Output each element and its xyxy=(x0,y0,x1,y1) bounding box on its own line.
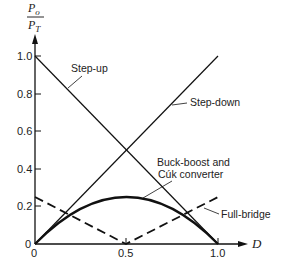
y-axis-arrow-icon xyxy=(32,34,38,44)
y-axis-label: Po PT xyxy=(27,1,44,34)
y-tick-label: 0.2 xyxy=(17,200,32,212)
annotation-buck-boost-2: Cúk converter xyxy=(158,168,224,180)
annotation-buck-boost-1: Buck-boost and xyxy=(157,156,230,168)
y-tick-label: 0.6 xyxy=(17,125,32,137)
series-buck-boost-cuk xyxy=(35,197,218,244)
y-tick-label: 0.8 xyxy=(17,88,32,100)
svg-text:PT: PT xyxy=(27,18,41,34)
x-tick-label: 0.5 xyxy=(118,247,133,259)
y-tick-label: 1.0 xyxy=(17,50,32,62)
chart: 1.0 0.8 0.6 0.4 0.2 0 0 0.5 1.0 D Po PT … xyxy=(0,0,282,273)
svg-text:Po: Po xyxy=(27,1,40,17)
x-tick-label: 0 xyxy=(31,247,37,259)
y-tick-label: 0.4 xyxy=(17,163,32,175)
x-axis-label: D xyxy=(251,236,262,251)
annotation-step-up: Step-up xyxy=(71,62,108,74)
annotation-step-down: Step-down xyxy=(190,96,240,108)
axes xyxy=(32,34,248,247)
x-tick-label: 1.0 xyxy=(210,247,225,259)
x-axis-arrow-icon xyxy=(238,241,248,247)
annotation-full-bridge: Full-bridge xyxy=(221,208,271,220)
